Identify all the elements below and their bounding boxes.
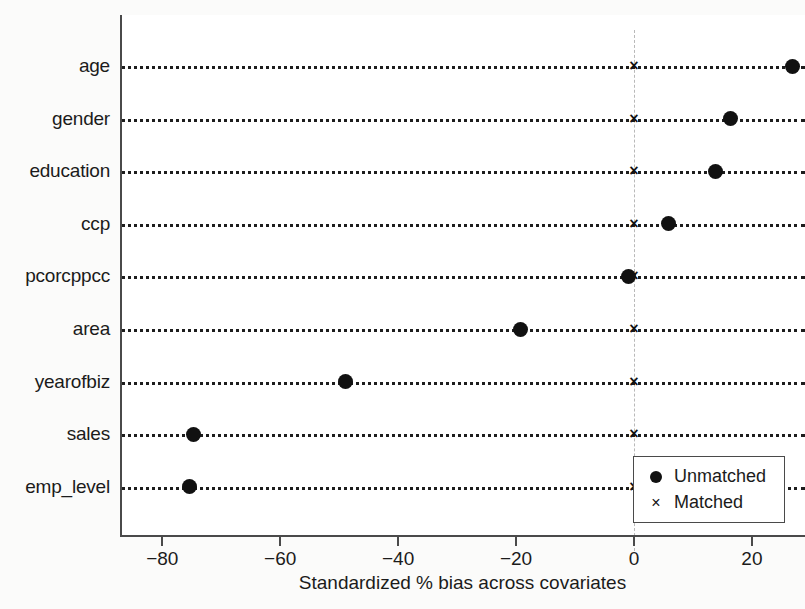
x-axis-tick-label: −40 — [382, 548, 414, 570]
x-axis-tick-label: −20 — [500, 548, 532, 570]
y-axis-tick-label: pcorcppcc — [0, 265, 110, 287]
unmatched-point-marker — [513, 322, 528, 337]
row-guide-dots — [121, 276, 805, 279]
unmatched-point-marker — [661, 216, 676, 231]
x-axis-title: Standardized % bias across covariates — [120, 572, 805, 594]
x-axis-tick-label: −60 — [264, 548, 296, 570]
x-axis-tick-mark — [515, 537, 517, 546]
legend-label-unmatched: Unmatched — [668, 466, 766, 487]
bias-plot-figure: ××××××××× agegendereducationccppcorcppcc… — [0, 0, 805, 609]
row-guide-dots — [121, 224, 805, 227]
legend-item-unmatched: Unmatched — [644, 463, 774, 489]
x-axis-spine — [120, 535, 805, 537]
matched-point-marker: × — [627, 59, 641, 73]
row-guide-dots — [121, 66, 805, 69]
matched-point-marker: × — [627, 112, 641, 126]
cross-marker-icon: × — [644, 493, 668, 511]
x-axis-tick-label: 20 — [741, 548, 762, 570]
y-axis-tick-label: area — [0, 318, 110, 340]
x-axis-tick-mark — [161, 537, 163, 546]
matched-point-marker: × — [627, 164, 641, 178]
y-axis-tick-label: yearofbiz — [0, 371, 110, 393]
row-guide-dots — [121, 329, 805, 332]
y-axis-spine — [120, 15, 122, 536]
y-axis-tick-label: ccp — [0, 213, 110, 235]
y-axis-tick-label: sales — [0, 423, 110, 445]
matched-point-marker: × — [627, 375, 641, 389]
row-guide-dots — [121, 171, 805, 174]
unmatched-point-marker — [182, 479, 197, 494]
x-axis-tick-mark — [751, 537, 753, 546]
matched-point-marker: × — [627, 269, 641, 283]
unmatched-point-marker — [785, 59, 800, 74]
unmatched-point-marker — [723, 111, 738, 126]
y-axis-tick-label: education — [0, 160, 110, 182]
unmatched-point-marker — [338, 374, 353, 389]
row-guide-dots — [121, 434, 805, 437]
y-axis-tick-label: emp_level — [0, 476, 110, 498]
legend: Unmatched × Matched — [633, 456, 785, 523]
x-axis-tick-label: −80 — [146, 548, 178, 570]
matched-point-marker: × — [627, 322, 641, 336]
y-axis-tick-label: age — [0, 55, 110, 77]
matched-point-marker: × — [627, 427, 641, 441]
y-axis-tick-label: gender — [0, 108, 110, 130]
x-axis-tick-mark — [279, 537, 281, 546]
legend-item-matched: × Matched — [644, 489, 774, 515]
x-axis-tick-mark — [397, 537, 399, 546]
circle-marker-icon — [644, 467, 668, 485]
x-axis-tick-label: 0 — [629, 548, 640, 570]
matched-point-marker: × — [627, 217, 641, 231]
x-axis-tick-mark — [633, 537, 635, 546]
unmatched-point-marker — [186, 427, 201, 442]
row-guide-dots — [121, 382, 805, 385]
legend-label-matched: Matched — [668, 492, 743, 513]
unmatched-point-marker — [708, 164, 723, 179]
row-guide-dots — [121, 119, 805, 122]
